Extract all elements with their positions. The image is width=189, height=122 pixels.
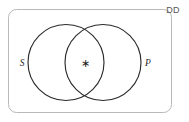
set-label-s: S — [20, 58, 25, 68]
set-circle-p — [65, 25, 141, 101]
venn-diagram-figure: S P ∗ DD — [0, 0, 189, 122]
corner-label-dd: DD — [166, 5, 180, 15]
set-label-p: P — [144, 58, 151, 68]
intersection-element-mark: ∗ — [81, 57, 90, 69]
set-circle-s — [28, 25, 104, 101]
venn-diagram-canvas: S P ∗ DD — [0, 0, 189, 122]
